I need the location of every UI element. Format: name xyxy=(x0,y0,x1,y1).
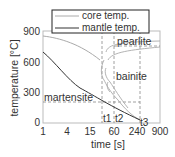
y-tick-600: 600 xyxy=(23,57,40,68)
legend-mantle-label: mantle temp. xyxy=(82,22,140,33)
x-tick-1: 1 xyxy=(40,126,46,137)
y-axis-label: temperature [°C] xyxy=(8,39,20,116)
annotation-t3: t3 xyxy=(140,117,149,128)
annotation-t1: t1 xyxy=(103,113,112,124)
annotation-pearlite: pearlite xyxy=(117,35,152,47)
annotation-martensite: martensite xyxy=(44,91,93,103)
annotation-bainite: bainite xyxy=(116,70,147,82)
x-axis-label: time [s] xyxy=(91,138,125,150)
annotation-t2: t2 xyxy=(115,113,124,124)
y-tick-300: 300 xyxy=(23,87,40,98)
cct-chart: 900 600 300 0 1 4 15 60 240 900 time [s]… xyxy=(0,0,175,157)
mantle-temp-line xyxy=(43,52,140,120)
x-tick-15: 15 xyxy=(84,126,96,137)
x-tick-900: 900 xyxy=(152,126,169,137)
legend-core-label: core temp. xyxy=(82,10,129,21)
x-tick-4: 4 xyxy=(64,126,70,137)
y-tick-900: 900 xyxy=(23,26,40,37)
x-tick-60: 60 xyxy=(108,126,120,137)
core-temp-line xyxy=(43,36,100,60)
legend: core temp. mantle temp. xyxy=(52,10,149,33)
